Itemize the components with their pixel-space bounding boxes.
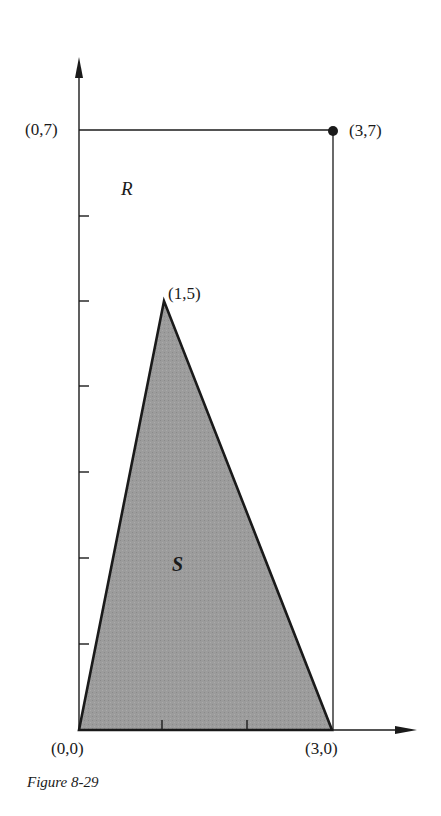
triangle-s-region <box>79 301 332 730</box>
figure-8-29: (0,7) (3,7) (1,5) (0,0) (3,0) R S Figure… <box>0 0 441 816</box>
label-point-1-5: (1,5) <box>168 285 201 302</box>
label-point-0-0: (0,0) <box>51 740 84 757</box>
point-3-7-marker <box>328 126 338 136</box>
label-region-s: S <box>172 554 183 574</box>
x-axis-arrow-icon <box>395 726 417 734</box>
figure-caption: Figure 8-29 <box>27 775 99 790</box>
label-point-3-0: (3,0) <box>305 740 338 757</box>
label-region-r: R <box>121 179 133 198</box>
label-point-3-7: (3,7) <box>349 122 382 139</box>
y-axis-arrow-icon <box>75 57 83 78</box>
label-point-0-7: (0,7) <box>25 121 58 138</box>
y-axis-ticks <box>79 216 89 644</box>
